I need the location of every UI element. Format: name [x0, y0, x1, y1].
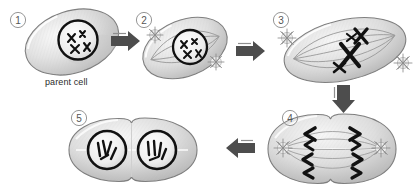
stage-number-2: 2 — [141, 15, 147, 26]
parent-cell-label: parent cell — [45, 77, 88, 87]
stage-number-3: 3 — [278, 15, 284, 26]
centrosome-right — [372, 139, 390, 157]
daughter-nucleus-left — [88, 131, 126, 169]
daughter-nucleus-right — [138, 131, 176, 169]
stage-4-anaphase: 4 — [268, 110, 396, 183]
nuclear-membrane — [88, 131, 126, 169]
centrosome-left — [147, 27, 163, 43]
nuclear-membrane — [59, 21, 98, 60]
centrosome-left — [274, 139, 292, 157]
centrosome-left — [278, 29, 296, 47]
stage-number-5: 5 — [76, 113, 82, 124]
nucleus — [59, 21, 98, 60]
centrosome-right — [208, 54, 224, 70]
nuclear-membrane — [138, 131, 176, 169]
stage-number-4: 4 — [287, 113, 293, 124]
centrosome-right — [394, 54, 412, 72]
stage-number-1: 1 — [15, 15, 21, 26]
mitosis-diagram: 1 — [0, 0, 420, 191]
nuclear-membrane — [173, 30, 207, 64]
nucleus — [173, 30, 207, 64]
